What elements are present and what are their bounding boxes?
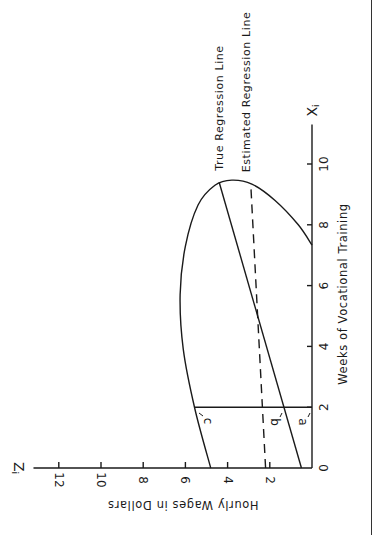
x-axis-symbol: Xi <box>304 104 321 116</box>
y-axis-symbol: Zi <box>10 462 27 474</box>
x-tick-label: 2 <box>317 403 331 411</box>
x-tick-label: 8 <box>317 221 331 229</box>
y-tick-label: 8 <box>136 476 150 484</box>
x-axis-title: Weeks of Vocational Training <box>336 203 350 384</box>
annotations: cba <box>199 413 310 426</box>
label-b: b <box>268 418 282 426</box>
regression-chart: 024681024681012XiZi cba <box>0 0 375 535</box>
estimated-regression-line <box>251 185 266 468</box>
true-regression-line <box>219 182 301 468</box>
label-c-leader <box>199 413 203 416</box>
x-tick-label: 10 <box>317 156 331 171</box>
axes: 024681024681012XiZi <box>10 104 331 487</box>
y-tick-label: 2 <box>263 476 277 484</box>
plot-area <box>180 180 312 468</box>
y-tick-label: 10 <box>94 472 108 487</box>
data-ellipse <box>180 180 312 468</box>
true-regression-line-label: True Regression Line <box>213 45 226 170</box>
label-a-leader <box>308 413 310 417</box>
x-tick-label: 0 <box>317 464 331 472</box>
x-tick-label: 6 <box>317 282 331 290</box>
y-tick-label: 4 <box>221 476 235 484</box>
y-tick-label: 6 <box>178 476 192 484</box>
label-c: c <box>201 418 215 425</box>
x-tick-label: 4 <box>317 343 331 351</box>
label-a: a <box>296 418 310 425</box>
y-axis-title: Hourly Wages in Dollars <box>107 498 258 512</box>
y-tick-label: 12 <box>52 472 66 487</box>
estimated-regression-line-label: Estimated Regression Line <box>240 12 253 173</box>
label-b-leader <box>280 413 282 417</box>
